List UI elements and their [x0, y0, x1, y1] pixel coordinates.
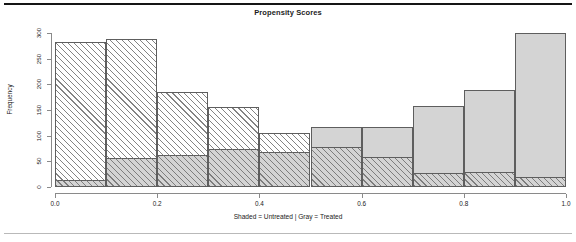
plot-area: Propensity Scores Frequency Shaded = Unt… [0, 0, 576, 242]
histogram-bar [157, 92, 208, 187]
histogram-bars [0, 0, 576, 242]
histogram-bar [464, 172, 515, 187]
histogram-bar [362, 157, 413, 187]
histogram-bar [311, 147, 362, 187]
histogram-bar [106, 39, 157, 187]
histogram-bar [515, 177, 566, 187]
histogram-bar [259, 133, 310, 187]
histogram-bar [413, 173, 464, 187]
histogram-bar [55, 42, 106, 187]
histogram-bar [515, 33, 566, 187]
figure-root: Propensity Scores Frequency Shaded = Unt… [0, 0, 576, 242]
histogram-bar [208, 107, 259, 187]
